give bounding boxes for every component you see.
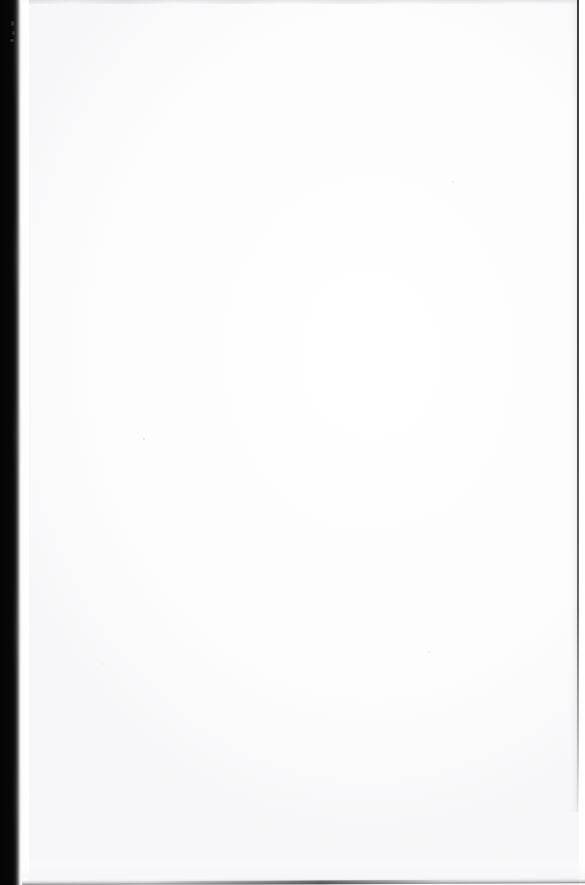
scanned-page [0,0,585,885]
paper-surface [0,0,585,885]
left-binding-gutter [0,0,22,885]
